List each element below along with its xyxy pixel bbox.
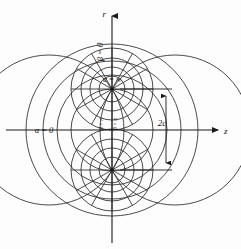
figure-root: z r β = 0 α = ∞ α = 0 β = π β = π 2c <box>0 0 241 249</box>
beta-pi-left-label: β = π <box>98 118 104 131</box>
bipolar-coordinates-figure: z r β = 0 α = ∞ α = 0 β = π β = π 2c <box>0 0 241 249</box>
figure-labels: z r β = 0 α = ∞ α = 0 β = π β = π 2c <box>35 9 228 136</box>
alpha-infinity-label: α = ∞ <box>103 75 122 84</box>
alpha-zero-label: α = 0 <box>35 125 54 135</box>
dimension-2c-label: 2c <box>158 118 167 128</box>
r-axis-label: r <box>102 9 106 19</box>
beta-pi-right-label: β = π <box>112 118 118 131</box>
beta-zero-label: β = 0 <box>95 42 105 62</box>
z-axis-label: z <box>223 126 228 136</box>
